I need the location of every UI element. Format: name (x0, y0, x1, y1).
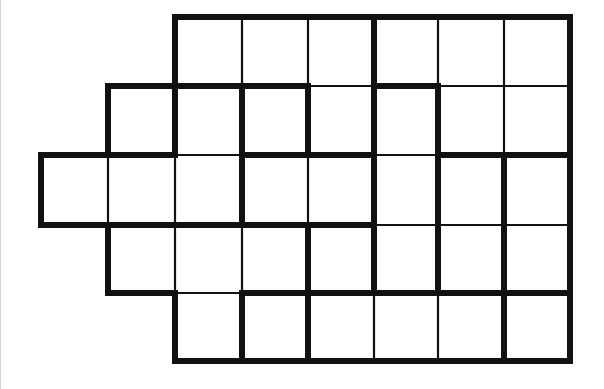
grid-cell[interactable] (374, 17, 438, 86)
grid-cell[interactable] (242, 17, 308, 86)
grid-cell[interactable] (438, 225, 504, 293)
grid-cell[interactable] (175, 86, 242, 155)
grid-cell[interactable] (108, 225, 175, 293)
grid-cell[interactable] (504, 17, 570, 86)
grid-cell[interactable] (504, 225, 570, 293)
grid-cell[interactable] (242, 293, 308, 361)
grid-cell[interactable] (504, 293, 570, 361)
grid-cell[interactable] (175, 293, 242, 361)
grid-cell[interactable] (308, 155, 374, 225)
grid-cell[interactable] (242, 155, 308, 225)
puzzle-grid (0, 0, 604, 389)
grid-cell[interactable] (308, 293, 374, 361)
grid-cell[interactable] (504, 155, 570, 225)
grid-cell[interactable] (108, 155, 175, 225)
grid-cell[interactable] (175, 17, 242, 86)
grid-cell[interactable] (242, 225, 308, 293)
puzzle-page (0, 0, 604, 389)
grid-cell[interactable] (308, 86, 374, 155)
grid-cell[interactable] (374, 155, 438, 225)
grid-cell[interactable] (438, 155, 504, 225)
grid-cell[interactable] (308, 17, 374, 86)
grid-cell[interactable] (242, 86, 308, 155)
grid-cell[interactable] (374, 86, 438, 155)
grid-cell[interactable] (438, 86, 504, 155)
grid-cell[interactable] (175, 225, 242, 293)
grid-cell[interactable] (41, 155, 108, 225)
grid-cell[interactable] (308, 225, 374, 293)
grid-cell[interactable] (374, 293, 438, 361)
grid-cell[interactable] (504, 86, 570, 155)
grid-cell[interactable] (175, 155, 242, 225)
grid-cell[interactable] (438, 17, 504, 86)
grid-cell[interactable] (438, 293, 504, 361)
grid-cell[interactable] (374, 225, 438, 293)
grid-cell[interactable] (108, 86, 175, 155)
